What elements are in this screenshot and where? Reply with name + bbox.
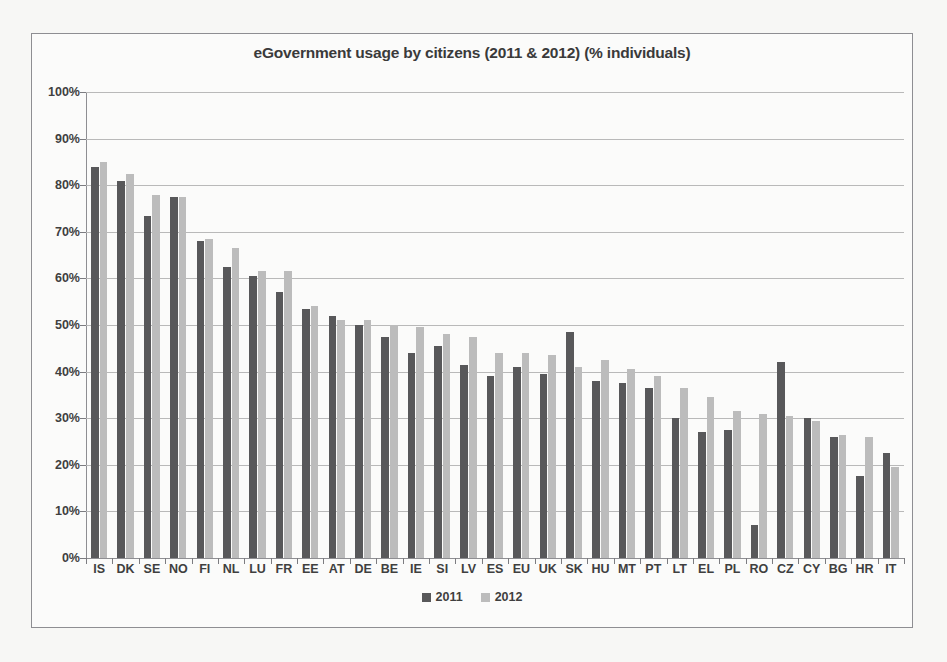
bar-BE-2012[interactable]	[390, 325, 398, 558]
bar-group	[271, 92, 297, 558]
x-tick-mark	[614, 558, 615, 564]
bar-group	[244, 92, 270, 558]
bar-DE-2011[interactable]	[355, 325, 363, 558]
bar-NO-2012[interactable]	[179, 197, 187, 558]
x-tick-label-CZ: CZ	[777, 562, 794, 576]
bar-LT-2011[interactable]	[672, 418, 680, 558]
bar-NL-2012[interactable]	[232, 248, 240, 558]
legend-item-2011[interactable]: 2011	[422, 590, 463, 604]
bar-NL-2011[interactable]	[223, 267, 231, 558]
bar-CY-2011[interactable]	[804, 418, 812, 558]
bar-EL-2012[interactable]	[707, 397, 715, 558]
bar-NO-2011[interactable]	[170, 197, 178, 558]
bar-UK-2011[interactable]	[540, 374, 548, 558]
x-tick-label-HR: HR	[855, 562, 873, 576]
bar-HR-2011[interactable]	[856, 476, 864, 558]
bar-RO-2012[interactable]	[759, 414, 767, 558]
bar-LV-2011[interactable]	[460, 365, 468, 558]
x-tick-mark	[112, 558, 113, 564]
bar-group	[403, 92, 429, 558]
bar-IE-2011[interactable]	[408, 353, 416, 558]
bar-FI-2012[interactable]	[205, 239, 213, 558]
bar-group	[218, 92, 244, 558]
bar-PT-2012[interactable]	[654, 376, 662, 558]
bar-group	[165, 92, 191, 558]
bar-PT-2011[interactable]	[645, 388, 653, 558]
bar-EL-2011[interactable]	[698, 432, 706, 558]
x-tick-mark	[561, 558, 562, 564]
bar-group	[323, 92, 349, 558]
bar-BG-2011[interactable]	[830, 437, 838, 558]
bar-SK-2012[interactable]	[575, 367, 583, 558]
bar-PL-2011[interactable]	[724, 430, 732, 558]
bar-IT-2012[interactable]	[891, 467, 899, 558]
bar-EE-2011[interactable]	[302, 309, 310, 558]
bar-SK-2011[interactable]	[566, 332, 574, 558]
x-tick-mark	[535, 558, 536, 564]
x-tick-mark	[429, 558, 430, 564]
bar-UK-2012[interactable]	[548, 355, 556, 558]
bar-LV-2012[interactable]	[469, 337, 477, 558]
bar-SE-2011[interactable]	[144, 216, 152, 559]
bar-CZ-2012[interactable]	[786, 416, 794, 558]
bar-LT-2012[interactable]	[680, 388, 688, 558]
bar-DK-2011[interactable]	[117, 181, 125, 558]
bar-CZ-2011[interactable]	[777, 362, 785, 558]
x-tick-mark	[455, 558, 456, 564]
bar-ES-2011[interactable]	[487, 376, 495, 558]
bar-EE-2012[interactable]	[311, 306, 319, 558]
bar-group	[719, 92, 745, 558]
bar-DE-2012[interactable]	[364, 320, 372, 558]
bar-MT-2011[interactable]	[619, 383, 627, 558]
x-tick-mark	[693, 558, 694, 564]
bar-CY-2012[interactable]	[812, 421, 820, 558]
bar-BG-2012[interactable]	[839, 435, 847, 558]
bar-MT-2012[interactable]	[627, 369, 635, 558]
bar-IE-2012[interactable]	[416, 327, 424, 558]
bar-FR-2011[interactable]	[276, 292, 284, 558]
bar-HR-2012[interactable]	[865, 437, 873, 558]
bar-PL-2012[interactable]	[733, 411, 741, 558]
bar-group	[429, 92, 455, 558]
bar-group	[825, 92, 851, 558]
bar-IS-2012[interactable]	[100, 162, 108, 558]
bar-IS-2011[interactable]	[91, 167, 99, 558]
x-tick-label-SI: SI	[436, 562, 448, 576]
bar-EU-2011[interactable]	[513, 367, 521, 558]
x-tick-mark	[798, 558, 799, 564]
bar-BE-2011[interactable]	[381, 337, 389, 558]
x-tick-mark	[218, 558, 219, 564]
bar-FR-2012[interactable]	[284, 271, 292, 558]
x-tick-label-IT: IT	[885, 562, 896, 576]
bar-group	[112, 92, 138, 558]
bar-SI-2011[interactable]	[434, 346, 442, 558]
bar-HU-2011[interactable]	[592, 381, 600, 558]
x-tick-label-SE: SE	[144, 562, 161, 576]
bar-AT-2012[interactable]	[337, 320, 345, 558]
legend-label-2012: 2012	[495, 590, 523, 604]
bar-IT-2011[interactable]	[883, 453, 891, 558]
bar-FI-2011[interactable]	[197, 241, 205, 558]
x-tick-mark	[482, 558, 483, 564]
x-tick-label-EL: EL	[698, 562, 714, 576]
bar-HU-2012[interactable]	[601, 360, 609, 558]
bar-RO-2011[interactable]	[751, 525, 759, 558]
bar-group	[535, 92, 561, 558]
bar-EU-2012[interactable]	[522, 353, 530, 558]
bar-ES-2012[interactable]	[495, 353, 503, 558]
chart-title: eGovernment usage by citizens (2011 & 20…	[31, 44, 913, 62]
x-tick-label-IS: IS	[93, 562, 105, 576]
x-tick-mark	[165, 558, 166, 564]
y-axis-labels: 100%90%80%70%60%50%40%30%20%10%0%	[24, 92, 80, 558]
legend-item-2012[interactable]: 2012	[481, 590, 523, 604]
x-tick-mark	[825, 558, 826, 564]
x-tick-label-FI: FI	[199, 562, 210, 576]
bar-DK-2012[interactable]	[126, 174, 134, 558]
bar-SE-2012[interactable]	[152, 195, 160, 558]
bar-LU-2012[interactable]	[258, 271, 266, 558]
bar-SI-2012[interactable]	[443, 334, 451, 558]
bar-AT-2011[interactable]	[329, 316, 337, 558]
bar-LU-2011[interactable]	[249, 276, 257, 558]
bar-group	[297, 92, 323, 558]
bar-group	[376, 92, 402, 558]
